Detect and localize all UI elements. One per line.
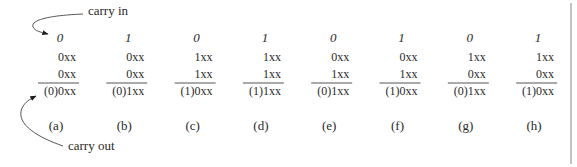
operand-1: 0xx <box>331 50 349 64</box>
addition-columns: 00xx0xx(0)0xx(a)10xx0xx(0)1xx(b)01xx1xx(… <box>38 30 557 133</box>
addition-column: 00xx1xx(0)1xx(e) <box>311 30 352 133</box>
addition-column: 10xx1xx(1)0xx(f) <box>380 30 421 133</box>
case-label: (d) <box>253 118 268 133</box>
addition-column: 11xx1xx(1)1xx(d) <box>243 30 284 133</box>
addition-column: 01xx1xx(1)0xx(c) <box>175 30 216 133</box>
operand-1: 0xx <box>126 50 144 64</box>
carry-out-label: carry out <box>68 138 115 153</box>
sum-result: (1)1xx <box>249 84 281 98</box>
operand-1: 0xx <box>400 50 418 64</box>
addition-column: 00xx0xx(0)0xx(a) <box>38 30 79 133</box>
operand-2: 1xx <box>195 67 213 81</box>
case-label: (f) <box>391 118 404 133</box>
sum-result: (0)0xx <box>44 84 76 98</box>
addition-column: 10xx0xx(0)1xx(b) <box>106 30 147 133</box>
operand-2: 0xx <box>468 67 486 81</box>
carry-in-digit: 0 <box>467 30 474 45</box>
operand-2: 0xx <box>536 67 554 81</box>
carry-in-digit: 0 <box>57 30 64 45</box>
case-label: (b) <box>117 118 132 133</box>
case-label: (e) <box>322 118 336 133</box>
operand-2: 1xx <box>400 67 418 81</box>
operand-2: 0xx <box>126 67 144 81</box>
operand-1: 1xx <box>468 50 486 64</box>
operand-1: 1xx <box>536 50 554 64</box>
carry-in-digit: 1 <box>125 30 132 45</box>
case-label: (c) <box>185 118 199 133</box>
case-label: (g) <box>458 118 473 133</box>
sum-result: (0)1xx <box>112 84 144 98</box>
addition-column: 11xx0xx(1)0xx(h) <box>516 30 557 133</box>
sum-result: (0)1xx <box>454 84 486 98</box>
sum-result: (1)0xx <box>386 84 418 98</box>
operand-2: 0xx <box>58 67 76 81</box>
sum-result: (0)1xx <box>317 84 349 98</box>
case-label: (a) <box>49 118 63 133</box>
operand-2: 1xx <box>331 67 349 81</box>
operand-1: 1xx <box>195 50 213 64</box>
carry-in-digit: 1 <box>398 30 405 45</box>
operand-1: 1xx <box>263 50 281 64</box>
sum-result: (1)0xx <box>181 84 213 98</box>
carry-in-digit: 0 <box>330 30 337 45</box>
carry-in-digit: 0 <box>193 30 200 45</box>
addition-column: 01xx0xx(0)1xx(g) <box>448 30 489 133</box>
operand-1: 0xx <box>58 50 76 64</box>
carry-in-digit: 1 <box>535 30 542 45</box>
case-label: (h) <box>527 118 542 133</box>
carry-in-digit: 1 <box>262 30 269 45</box>
binary-addition-diagram: carry in carry out 00xx0xx(0)0xx(a)10xx0… <box>0 0 577 167</box>
operand-2: 1xx <box>263 67 281 81</box>
carry-in-label: carry in <box>88 3 129 18</box>
sum-result: (1)0xx <box>522 84 554 98</box>
